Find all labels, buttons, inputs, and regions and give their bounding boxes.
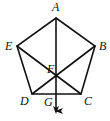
label-g: G [44,95,53,109]
label-e: E [4,39,13,53]
label-b: B [99,39,107,53]
label-d: D [19,94,29,108]
label-f: F [46,62,55,76]
pentagon-diagram: A B C D E F G [0,0,110,121]
diagonal-bd [32,46,95,94]
label-a: A [51,0,60,14]
label-c: C [84,94,93,108]
